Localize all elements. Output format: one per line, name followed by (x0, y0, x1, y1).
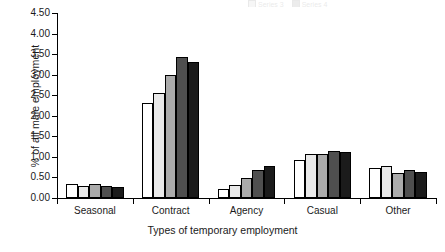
chart-legend-cropped: Series 3Series 4 (248, 0, 398, 7)
x-axis-category-label: Agency (209, 205, 285, 217)
x-axis-tick (133, 199, 134, 204)
bar (381, 166, 393, 198)
y-axis-tick-label: 3.00 (8, 70, 50, 80)
bar (188, 62, 200, 198)
bar (112, 187, 124, 198)
bar (101, 186, 113, 198)
legend-label: Series 4 (302, 1, 328, 7)
x-axis-category-label: Other (360, 205, 436, 217)
bar (369, 168, 381, 198)
legend-entry: Series 3 (248, 0, 284, 7)
bar (229, 185, 241, 198)
y-axis-tick-label: 2.50 (8, 90, 50, 100)
y-axis-tick-label: 1.50 (8, 131, 50, 141)
bar (66, 184, 78, 198)
y-axis-tick-label: 3.50 (8, 49, 50, 59)
bar-group (218, 13, 276, 198)
bar (176, 57, 188, 198)
bar (294, 160, 306, 198)
bar (142, 103, 154, 198)
plot-area (57, 13, 436, 198)
x-axis-tick (209, 199, 210, 204)
x-axis-category-label: Casual (284, 205, 360, 217)
y-axis-tick-label: 2.00 (8, 111, 50, 121)
bar (392, 173, 404, 198)
bar (165, 75, 177, 198)
y-axis-tick-label: 4.00 (8, 29, 50, 39)
y-axis-tick-label: 0.50 (8, 172, 50, 182)
y-axis-tick-label: 4.50 (8, 8, 50, 18)
bar (264, 166, 276, 198)
legend-swatch-icon (248, 0, 256, 7)
legend-label: Series 3 (258, 1, 284, 7)
bar-chart: Series 3Series 4 % of all male employmen… (0, 0, 445, 252)
bar (241, 178, 253, 198)
bar-group (66, 13, 124, 198)
y-axis-tick-label: 0.00 (8, 193, 50, 203)
x-axis-category-label: Seasonal (57, 205, 133, 217)
x-axis-tick (360, 199, 361, 204)
legend-swatch-icon (292, 0, 300, 7)
bar (340, 152, 352, 198)
bar (218, 189, 230, 198)
x-axis-line (57, 198, 437, 199)
bar (89, 184, 101, 198)
bar-group (294, 13, 352, 198)
bar (317, 154, 329, 198)
y-axis-tick-label: 1.00 (8, 152, 50, 162)
x-axis-tick (284, 199, 285, 204)
bar (415, 172, 427, 198)
bar (78, 186, 90, 198)
bar-group (142, 13, 200, 198)
bar (328, 151, 340, 198)
bar (305, 154, 317, 198)
bar-group (369, 13, 427, 198)
bar (404, 170, 416, 198)
x-axis-tick (436, 199, 437, 204)
x-axis-tick (57, 199, 58, 204)
bar (252, 170, 264, 198)
x-axis-category-label: Contract (133, 205, 209, 217)
x-axis-title: Types of temporary employment (0, 224, 445, 236)
bar (153, 93, 165, 198)
legend-entry: Series 4 (292, 0, 328, 7)
